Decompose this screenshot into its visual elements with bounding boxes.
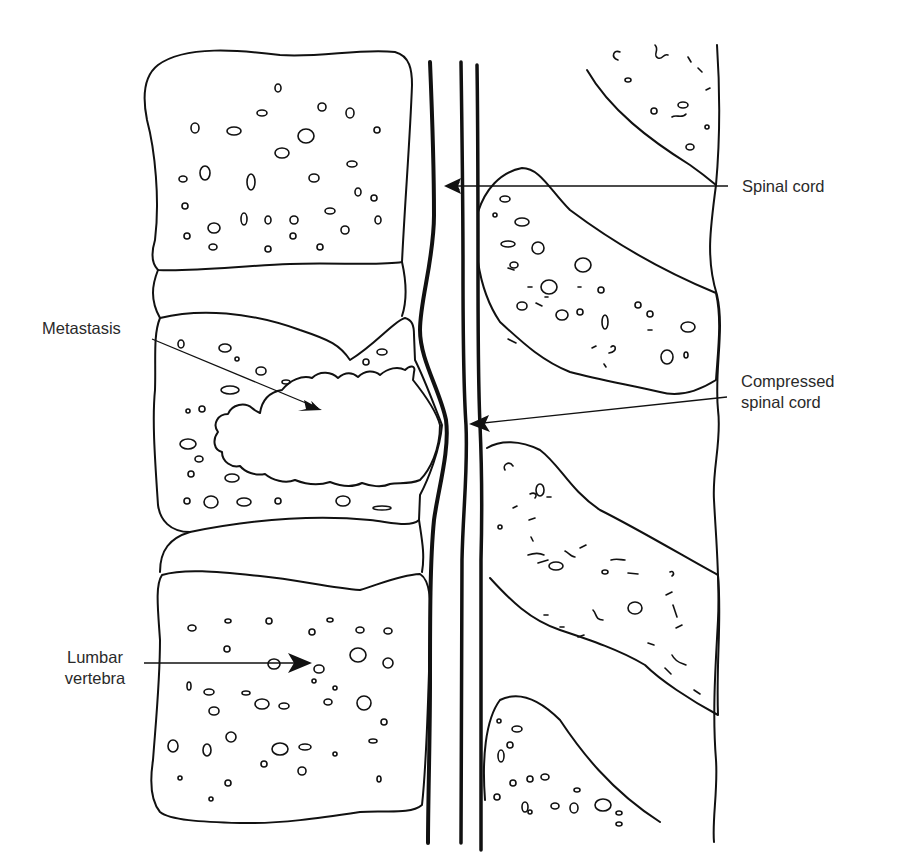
posterior-texture-dashes bbox=[504, 45, 710, 694]
compressed-spinal-cord-label-line2: spinal cord bbox=[741, 393, 821, 412]
lumbar-vertebra-label-line1: Lumbar bbox=[50, 648, 140, 667]
lower-spinous-process bbox=[487, 442, 719, 715]
compressed-cord-leader bbox=[474, 397, 727, 424]
upper-spinous-process bbox=[587, 70, 716, 185]
trabecular-texture bbox=[168, 78, 709, 826]
metastasis-leader bbox=[152, 339, 318, 408]
lumbar-vertebra-label-line2: vertebra bbox=[50, 669, 140, 688]
middle-spinous-process bbox=[478, 168, 719, 394]
metastasis-label: Metastasis bbox=[42, 319, 121, 338]
spine-diagram bbox=[0, 0, 902, 865]
posterior-boundary-line bbox=[710, 45, 720, 842]
dura-posterior-line bbox=[420, 62, 447, 843]
metastatic-vertebral-body bbox=[154, 313, 442, 532]
metastasis-tumor bbox=[215, 366, 440, 486]
lower-vertebral-body bbox=[151, 571, 430, 823]
compressed-spinal-cord-label-line1: Compressed bbox=[741, 372, 835, 391]
arrowheads bbox=[288, 178, 490, 673]
spinal-cord-label: Spinal cord bbox=[742, 177, 825, 196]
spinal-cord-left-line bbox=[461, 62, 466, 843]
lower-disc bbox=[160, 520, 423, 572]
spinal-cord-right-line bbox=[477, 65, 482, 850]
